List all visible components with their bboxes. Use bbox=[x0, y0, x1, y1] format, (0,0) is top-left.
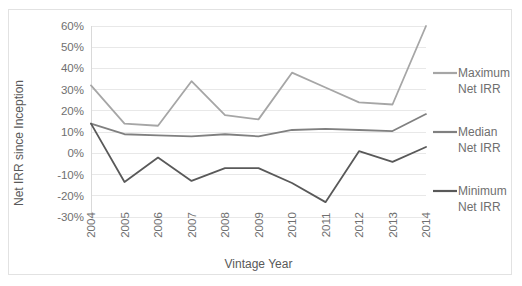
y-tick-label: -10% bbox=[57, 169, 84, 181]
x-axis-tick-labels: 2004200520062007200820092010201120122013… bbox=[85, 212, 432, 238]
legend-label-maximum-line2: Net IRR bbox=[458, 82, 501, 96]
x-tick-label: 2009 bbox=[253, 212, 265, 238]
x-tick-label: 2013 bbox=[387, 212, 399, 238]
y-tick-label: 20% bbox=[61, 105, 84, 117]
y-tick-label: 50% bbox=[61, 41, 84, 53]
series-lines bbox=[91, 26, 426, 202]
chart-container: 60%50%40%30%20%10%0%-10%-20%-30% 2004200… bbox=[8, 9, 512, 275]
x-tick-label: 2011 bbox=[320, 213, 332, 238]
y-tick-label: 60% bbox=[61, 20, 84, 32]
y-tick-label: -20% bbox=[57, 190, 84, 202]
legend-label-median-line1: Median bbox=[458, 125, 497, 139]
y-tick-label: -30% bbox=[57, 211, 84, 223]
x-tick-label: 2010 bbox=[286, 212, 298, 238]
legend-label-median-line2: Net IRR bbox=[458, 141, 501, 155]
gridlines bbox=[91, 26, 426, 217]
x-tick-label: 2008 bbox=[219, 212, 231, 238]
y-axis-title: Net IRR since Inception bbox=[12, 80, 26, 206]
legend-label-minimum-line1: Minimum bbox=[458, 184, 507, 198]
chart-legend: MaximumNet IRRMedianNet IRRMinimumNet IR… bbox=[433, 66, 510, 214]
y-tick-label: 30% bbox=[61, 84, 84, 96]
x-tick-label: 2004 bbox=[85, 212, 97, 238]
legend-label-minimum-line2: Net IRR bbox=[458, 200, 501, 214]
x-tick-label: 2007 bbox=[186, 212, 198, 238]
legend-label-maximum-line1: Maximum bbox=[458, 66, 510, 80]
x-tick-label: 2012 bbox=[353, 212, 365, 238]
x-tick-label: 2006 bbox=[152, 212, 164, 238]
x-tick-label: 2014 bbox=[420, 212, 432, 238]
y-axis-tick-labels: 60%50%40%30%20%10%0%-10%-20%-30% bbox=[57, 20, 84, 223]
x-axis-title: Vintage Year bbox=[225, 257, 293, 271]
y-tick-label: 10% bbox=[61, 126, 84, 138]
line-chart: 60%50%40%30%20%10%0%-10%-20%-30% 2004200… bbox=[9, 10, 513, 276]
y-tick-label: 0% bbox=[67, 147, 84, 159]
x-tick-label: 2005 bbox=[119, 212, 131, 238]
y-tick-label: 40% bbox=[61, 62, 84, 74]
